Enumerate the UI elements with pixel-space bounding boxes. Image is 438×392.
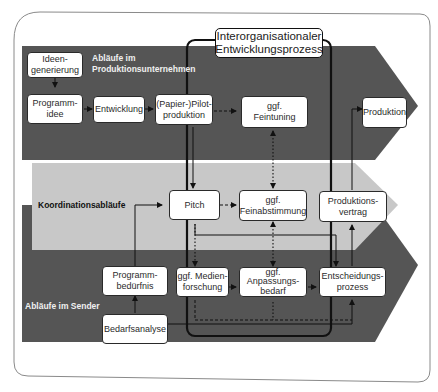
node-produktionsvertrag: Produktions- vertrag (319, 191, 387, 222)
node-programmbeduerfnis: Programm- bedürfnis (102, 266, 168, 296)
node-pilotproduktion: (Papier-)Pilot- produktion (155, 94, 213, 125)
node-entscheidungsprozess: Entscheidungs- prozess (319, 267, 386, 297)
process-title: Interorganisationaler Entwicklungsprozes… (215, 28, 323, 58)
node-produktion: Produktion (362, 97, 407, 128)
node-programmidee: Programm- idee (27, 94, 83, 124)
node-bedarfsanalyse: Bedarfsanalyse (102, 314, 168, 344)
node-medienforschung: ggf. Medien- forschung (176, 267, 229, 297)
diagram-canvas: Interorganisationaler Entwicklungsprozes… (0, 0, 438, 392)
node-feinabstimmung: ggf. Feinabstimmung (239, 190, 307, 221)
node-feintuning: ggf. Feintuning (241, 96, 308, 128)
lane-label-produktion: Abläufe im Produktionsunternehmen (92, 53, 195, 75)
node-pitch: Pitch (169, 190, 220, 220)
node-ideengenerierung: Ideen- generierung (27, 52, 83, 78)
lane-label-koordination: Koordinationsabläufe (38, 200, 125, 211)
node-anpassungsbedarf: ggf. Anpassungs- bedarf (239, 267, 307, 297)
node-entwicklung: Entwicklung (93, 96, 145, 123)
lane-label-sender: Abläufe im Sender (25, 301, 100, 312)
